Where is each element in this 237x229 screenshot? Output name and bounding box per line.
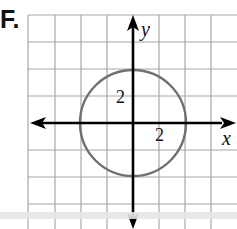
x-tick-label: 2 xyxy=(155,125,164,145)
y-axis-label: y xyxy=(139,18,150,41)
coordinate-plane: y x 2 2 xyxy=(0,0,237,229)
scan-band xyxy=(0,212,237,219)
y-tick-label: 2 xyxy=(116,87,125,107)
x-axis-label: x xyxy=(221,127,231,149)
graph-figure: F. xyxy=(0,0,237,229)
